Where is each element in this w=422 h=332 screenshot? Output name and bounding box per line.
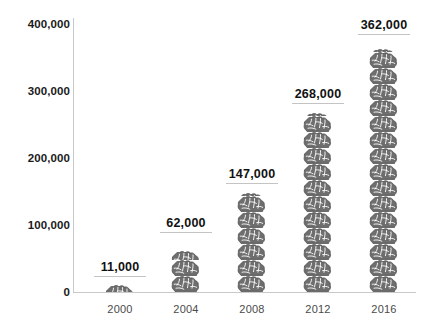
brain-icon [303,180,333,196]
brain-icon [303,212,333,228]
icon-stack [237,193,267,292]
brain-icon [369,84,399,100]
brain-icon [369,100,399,116]
brain-icon [303,196,333,212]
bar-column-2012 [284,113,352,292]
brain-icon [369,276,399,292]
brain-icon [369,228,399,244]
brain-icon [237,228,267,244]
brain-icon-partial [105,285,135,292]
brain-icon [237,196,267,212]
brain-icon [303,244,333,260]
brain-icon [237,260,267,276]
brain-icon [369,244,399,260]
y-axis-tick-label-400000: 400,000 [4,18,70,30]
x-axis-tick-label-2012: 2012 [284,303,352,315]
brain-icon [369,68,399,84]
x-axis-line [73,292,416,293]
icon-stack [105,285,135,292]
y-axis-line [73,18,74,293]
brain-icon [303,164,333,180]
y-axis-tick-label-100000: 100,000 [4,219,70,231]
bar-column-2008 [218,193,286,292]
value-label-2004: 62,000 [143,216,229,230]
x-axis-tick-label-2008: 2008 [218,303,286,315]
pictograph-chart: 400,000 300,000 200,000 100,000 0 11,000… [0,0,422,332]
brain-icon [303,148,333,164]
value-underline-2000 [94,276,146,277]
value-underline-2004 [160,232,212,233]
brain-icon [303,276,333,292]
brain-icon [237,212,267,228]
icon-stack [369,49,399,292]
brain-icon [303,132,333,148]
brain-icon-partial [171,251,201,260]
brain-icon [369,52,399,68]
brain-icon [171,260,201,276]
x-axis-tick-label-2016: 2016 [350,303,418,315]
brain-icon [369,212,399,228]
value-label-2012: 268,000 [275,87,361,101]
value-label-2008: 147,000 [209,167,295,181]
brain-icon [171,276,201,292]
icon-stack [303,113,333,292]
x-axis-tick-label-2000: 2000 [86,303,154,315]
brain-icon [369,164,399,180]
icon-stack [171,251,201,292]
brain-icon [303,228,333,244]
value-underline-2012 [292,103,344,104]
brain-icon [237,244,267,260]
brain-icon [369,148,399,164]
y-axis-tick-label-0: 0 [4,286,70,298]
y-axis-tick-label-300000: 300,000 [4,85,70,97]
brain-icon [369,196,399,212]
bar-column-2000 [86,285,154,292]
brain-icon [237,276,267,292]
value-label-2000: 11,000 [77,260,163,274]
brain-icon [369,132,399,148]
value-underline-2016 [358,34,410,35]
brain-icon [303,260,333,276]
brain-icon [369,116,399,132]
value-underline-2008 [226,183,278,184]
y-axis-tick-label-200000: 200,000 [4,152,70,164]
bar-column-2016 [350,49,418,292]
x-axis-tick-label-2004: 2004 [152,303,220,315]
brain-icon [303,116,333,132]
brain-icon [369,180,399,196]
brain-icon [369,260,399,276]
value-label-2016: 362,000 [341,18,422,32]
